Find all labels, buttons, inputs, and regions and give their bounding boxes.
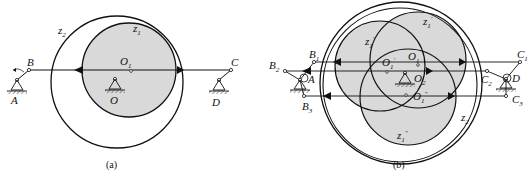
gear-linkage-diagram: z2 z1 O1 O A B C D (a) xyxy=(0,0,531,175)
center-o1-double-prime xyxy=(405,94,408,97)
ground-support-a xyxy=(7,78,27,94)
center-o1-prime xyxy=(386,71,389,74)
label-a: A xyxy=(307,73,315,85)
label-a: A xyxy=(10,94,18,106)
label-d: D xyxy=(511,72,520,84)
label-b2: B2 xyxy=(269,59,280,74)
joint-left xyxy=(74,66,83,74)
label-c3: C3 xyxy=(512,93,523,108)
label-d: D xyxy=(211,96,220,108)
rocker-dc xyxy=(219,70,231,80)
ground-support-d xyxy=(209,78,229,94)
label-c2: C2 xyxy=(481,73,492,88)
label-z2: z2 xyxy=(57,24,66,39)
joint-b xyxy=(27,68,30,71)
label-o: O xyxy=(110,94,118,106)
caption-a: (a) xyxy=(106,159,117,171)
figure-b: B2 B1 A B3 C1 C2 D C3 z1′ z1′ z1″ z2 O1 … xyxy=(269,2,528,171)
label-b: B xyxy=(27,56,34,68)
center-o1 xyxy=(130,70,133,73)
label-b3: B3 xyxy=(302,100,313,115)
figure-a: z2 z1 O1 O A B C D (a) xyxy=(7,16,239,171)
caption-b: (b) xyxy=(393,159,405,171)
arrow-head-icon xyxy=(13,68,16,72)
label-z2: z2 xyxy=(460,111,469,126)
joint-c xyxy=(229,68,232,71)
label-c: C xyxy=(231,56,239,68)
